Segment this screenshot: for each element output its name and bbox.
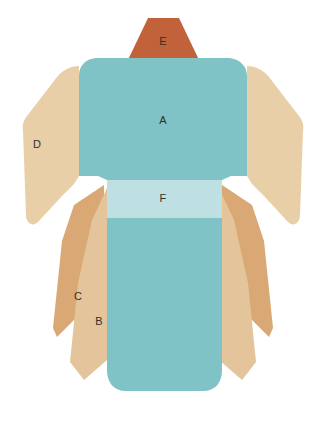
part-label-F: F: [160, 192, 167, 204]
kimono-illustration: A B C D E F: [0, 0, 329, 422]
part-label-B: B: [95, 315, 103, 327]
part-label-E: E: [159, 35, 167, 47]
part-label-C: C: [74, 290, 82, 302]
part-label-D: D: [33, 138, 41, 150]
part-label-A: A: [159, 114, 167, 126]
kimono-diagram: A B C D E F: [0, 0, 329, 422]
